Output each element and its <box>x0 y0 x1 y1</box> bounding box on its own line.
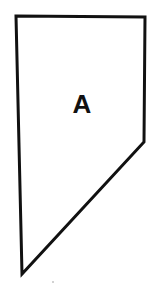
region-a-polygon <box>16 16 145 274</box>
diagram-canvas: A <box>0 0 157 287</box>
scan-speck <box>52 281 54 283</box>
region-a-label: A <box>73 89 92 119</box>
